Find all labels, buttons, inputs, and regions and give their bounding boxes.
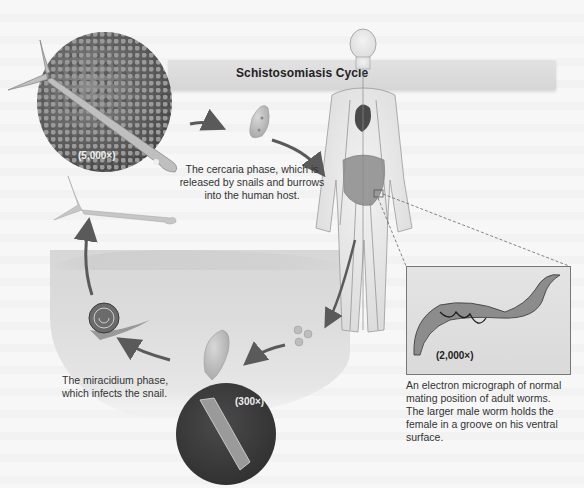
caption-line: surface. <box>406 431 581 444</box>
arrow-snail-to-cercaria <box>86 226 92 295</box>
caption-line: female in a groove on his ventral <box>406 418 581 431</box>
adult-worms-icon <box>414 275 560 355</box>
snail-icon <box>89 303 150 340</box>
cercaria-icon <box>8 40 177 172</box>
miracidium-icon <box>204 330 229 380</box>
eggs-icon <box>294 326 312 346</box>
caption-line: mating position of adult worms. <box>406 392 581 405</box>
arrow-miracidium-to-snail <box>124 342 170 360</box>
caption-line: The miracidium phase, <box>62 374 202 387</box>
free-cercaria-icon <box>54 176 176 224</box>
schistosomulum-icon <box>250 106 269 138</box>
caption-line: An electron micrograph of normal <box>406 379 581 392</box>
caption-line: into the human host. <box>172 189 332 202</box>
arrow-eggs-to-miracidium <box>250 345 285 360</box>
caption-line: released by snails and burrows <box>172 176 332 189</box>
miracidium-caption: The miracidium phase, which infects the … <box>62 374 202 400</box>
sporocyst-icon <box>200 398 250 470</box>
adult-worms-caption: An electron micrograph of normal mating … <box>406 379 581 444</box>
callout-line-top <box>383 194 569 266</box>
arrow-cercaria-to-blob <box>190 122 218 126</box>
cercaria-caption: The cercaria phase, which is released by… <box>172 163 332 202</box>
caption-line: The larger male worm holds the <box>406 405 581 418</box>
caption-line: The cercaria phase, which is <box>172 163 332 176</box>
caption-line: which infects the snail. <box>62 387 202 400</box>
